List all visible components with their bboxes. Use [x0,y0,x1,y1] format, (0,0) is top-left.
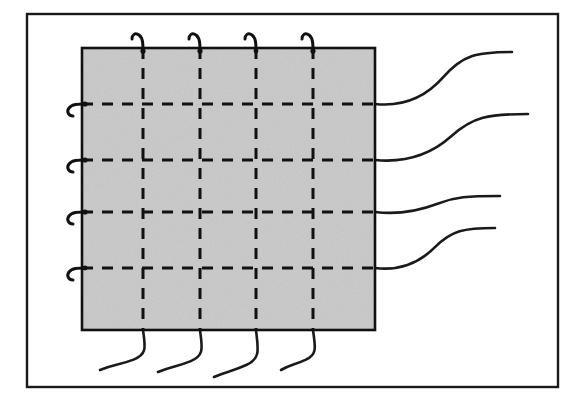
junction-left-1 [82,101,87,106]
junction-top-4 [310,48,315,53]
junction-left-2 [82,157,87,162]
shaded-square-group [82,48,375,330]
junction-top-2 [197,48,202,53]
junction-left-3 [82,209,87,214]
junction-left-4 [83,266,88,271]
junction-top-1 [140,48,145,53]
figure-container [0,0,578,404]
shaded-square-fill [82,48,375,330]
junction-top-3 [254,49,259,54]
diagram-canvas [0,0,578,404]
